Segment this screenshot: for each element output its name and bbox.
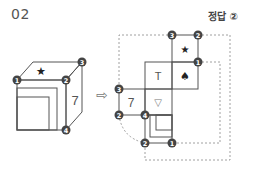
svg-text:3: 3: [170, 32, 175, 40]
net-triangle: ▽: [154, 97, 162, 108]
net-star: ★: [181, 44, 190, 55]
cube-net-diagram: ★ 7 1 2 3 4 ⇨ ★ T ♠ 7 ▽ 3 2 1 3 2 4 2: [0, 0, 260, 169]
cube-seven: 7: [71, 93, 78, 108]
svg-text:1: 1: [196, 59, 201, 67]
svg-text:2: 2: [117, 112, 122, 120]
svg-text:2: 2: [64, 77, 69, 85]
svg-text:1: 1: [15, 77, 20, 85]
net-t: T: [155, 70, 162, 82]
net-spade: ♠: [180, 70, 190, 83]
svg-text:3: 3: [80, 59, 85, 67]
svg-text:1: 1: [170, 140, 175, 148]
svg-text:4: 4: [143, 112, 148, 120]
svg-text:2: 2: [143, 140, 148, 148]
svg-text:3: 3: [117, 86, 122, 94]
svg-text:2: 2: [196, 32, 201, 40]
arrow-icon: ⇨: [96, 87, 108, 103]
svg-text:4: 4: [64, 127, 69, 135]
net-seven: 7: [128, 96, 135, 110]
cube-star: ★: [36, 65, 46, 78]
